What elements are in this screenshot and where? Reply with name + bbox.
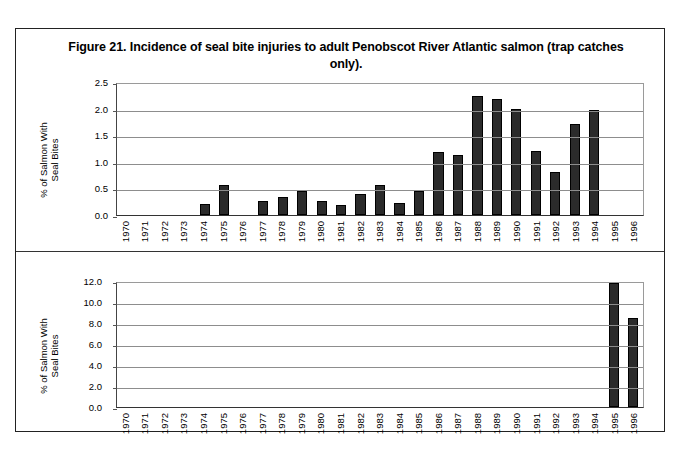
x-tick-label: 1976 [238, 221, 248, 242]
y-tickmark [113, 137, 117, 138]
bar-slot [429, 84, 448, 215]
gridline [117, 367, 643, 368]
bar [511, 109, 521, 215]
x-label-slot: 1976 [233, 411, 253, 460]
x-label-slot: 1974 [194, 411, 214, 460]
x-tick-label: 1980 [316, 413, 326, 434]
x-tick-label: 1976 [238, 413, 248, 434]
bar [375, 185, 385, 215]
y-tickmark [113, 325, 117, 326]
bar [531, 151, 541, 215]
x-tick-label: 1971 [140, 221, 150, 242]
x-tick-label: 1972 [160, 221, 170, 242]
x-axis-labels-bottom: 1970197119721973197419751976197719781979… [116, 411, 644, 460]
x-label-slot: 1988 [468, 411, 488, 460]
x-tick-label: 1995 [610, 221, 620, 242]
bar-series-top [117, 84, 643, 215]
x-tick-label: 1981 [336, 221, 346, 242]
x-tick-label: 1985 [414, 413, 424, 434]
bar [297, 191, 307, 215]
bar-slot [448, 84, 467, 215]
y-tickmark [113, 217, 117, 218]
y-tickmark [113, 304, 117, 305]
x-label-slot: 1979 [292, 411, 312, 460]
x-tick-label: 1979 [297, 413, 307, 434]
x-label-slot: 1986 [429, 411, 449, 460]
x-tick-label: 1982 [356, 413, 366, 434]
x-tick-label: 1992 [551, 413, 561, 434]
x-tick-label: 1994 [590, 413, 600, 434]
y-axis-ticks-top: 0.00.51.01.52.02.5 [74, 83, 108, 216]
x-tick-label: 1987 [453, 413, 463, 434]
x-tick-label: 1995 [610, 413, 620, 434]
bar-slot [507, 84, 526, 215]
bar-slot [117, 84, 136, 215]
y-tickmark [113, 346, 117, 347]
x-tick-label: 1974 [199, 413, 209, 434]
gridline [117, 164, 643, 165]
bar [433, 152, 443, 215]
gridline [117, 346, 643, 347]
gridline [117, 325, 643, 326]
bar-slot [604, 84, 623, 215]
x-tick-label: 1990 [512, 221, 522, 242]
x-tick-label: 1983 [375, 221, 385, 242]
bar-slot [234, 84, 253, 215]
x-tick-label: 1991 [532, 413, 542, 434]
x-label-slot: 1995 [605, 411, 625, 460]
bar-slot [409, 84, 428, 215]
bar [589, 110, 599, 215]
bar-slot [156, 84, 175, 215]
x-tick-label: 1989 [492, 413, 502, 434]
x-label-slot: 1985 [409, 411, 429, 460]
bar-slot [351, 84, 370, 215]
bar [278, 197, 288, 215]
y-axis-title-top: % of Salmon WithSeal Bites [38, 105, 60, 215]
y-tick-label: 2.5 [95, 78, 108, 88]
x-tick-label: 1993 [571, 413, 581, 434]
x-tick-label: 1977 [258, 221, 268, 242]
x-tick-label: 1983 [375, 413, 385, 434]
y-tick-label: 0.0 [89, 403, 102, 413]
x-tick-label: 1984 [395, 221, 405, 242]
x-label-slot: 1990 [507, 411, 527, 460]
x-label-slot: 1977 [253, 411, 273, 460]
bar-slot [487, 84, 506, 215]
y-axis-title-bottom: % of Salmon WithSeal Bites [38, 301, 60, 411]
bar-slot [312, 84, 331, 215]
bar-slot [370, 84, 389, 215]
x-label-slot: 1982 [351, 411, 371, 460]
y-tickmark [113, 111, 117, 112]
bar-slot [292, 84, 311, 215]
y-tick-label: 10.0 [84, 298, 103, 308]
x-tick-label: 1988 [473, 413, 483, 434]
x-tick-label: 1974 [199, 221, 209, 242]
y-tickmark [113, 84, 117, 85]
x-tick-label: 1970 [121, 413, 131, 434]
x-tick-label: 1988 [473, 221, 483, 242]
bar [258, 201, 268, 215]
x-label-slot: 1987 [449, 411, 469, 460]
gridline [117, 137, 643, 138]
y-tickmark [113, 388, 117, 389]
x-tick-label: 1982 [356, 221, 366, 242]
x-label-slot: 1993 [566, 411, 586, 460]
x-tick-label: 1972 [160, 413, 170, 434]
bar-slot [175, 84, 194, 215]
y-tickmark [113, 367, 117, 368]
bar-slot [195, 84, 214, 215]
bar [200, 204, 210, 215]
x-tick-label: 1975 [219, 413, 229, 434]
x-tick-label: 1989 [492, 221, 502, 242]
gridline [117, 111, 643, 112]
y-tickmark [113, 283, 117, 284]
bar [492, 99, 502, 216]
x-tick-label: 1977 [258, 413, 268, 434]
x-label-slot: 1972 [155, 411, 175, 460]
y-tick-label: 12.0 [84, 277, 103, 287]
bar-slot [214, 84, 233, 215]
y-tickmark [113, 409, 117, 410]
y-tick-label: 2.0 [95, 105, 108, 115]
x-label-slot: 1971 [136, 411, 156, 460]
x-label-slot: 1983 [370, 411, 390, 460]
